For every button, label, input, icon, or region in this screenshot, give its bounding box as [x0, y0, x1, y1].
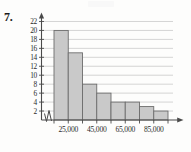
y-tick-label: 16	[30, 44, 37, 53]
x-tick-label: 25,000	[58, 125, 78, 134]
bar	[111, 102, 125, 120]
x-tick-label: 45,000	[87, 125, 107, 134]
x-tick-label: 85,000	[144, 125, 164, 134]
bar	[125, 102, 139, 120]
y-tick-label: 8	[34, 80, 38, 89]
bar	[97, 93, 111, 120]
histogram-plot: 246810121416182022 25,00045,00065,00085,…	[0, 0, 191, 152]
y-tick-label: 10	[30, 71, 37, 80]
bar	[83, 84, 97, 120]
y-tick-label: 2	[34, 107, 38, 116]
bar	[54, 30, 68, 120]
histogram-figure: 7. 246810121416182022 25,00045,00065,000…	[0, 0, 191, 152]
bar	[140, 107, 154, 120]
y-axis-arrow-icon	[39, 13, 44, 19]
bar	[68, 53, 82, 120]
x-tick-labels-group: 25,00045,00065,00085,000	[58, 125, 164, 134]
y-tick-label: 18	[30, 35, 37, 44]
bar	[154, 111, 168, 120]
y-tick-label: 14	[30, 53, 37, 62]
x-axis-arrow-icon	[177, 117, 183, 122]
y-tick-label: 22	[30, 17, 37, 26]
y-tick-label: 6	[34, 89, 38, 98]
y-tick-label: 20	[30, 26, 37, 35]
y-tick-label: 4	[34, 98, 38, 107]
y-tick-label: 12	[30, 62, 37, 71]
y-tick-labels-group: 246810121416182022	[30, 17, 37, 116]
x-tick-label: 65,000	[115, 125, 135, 134]
